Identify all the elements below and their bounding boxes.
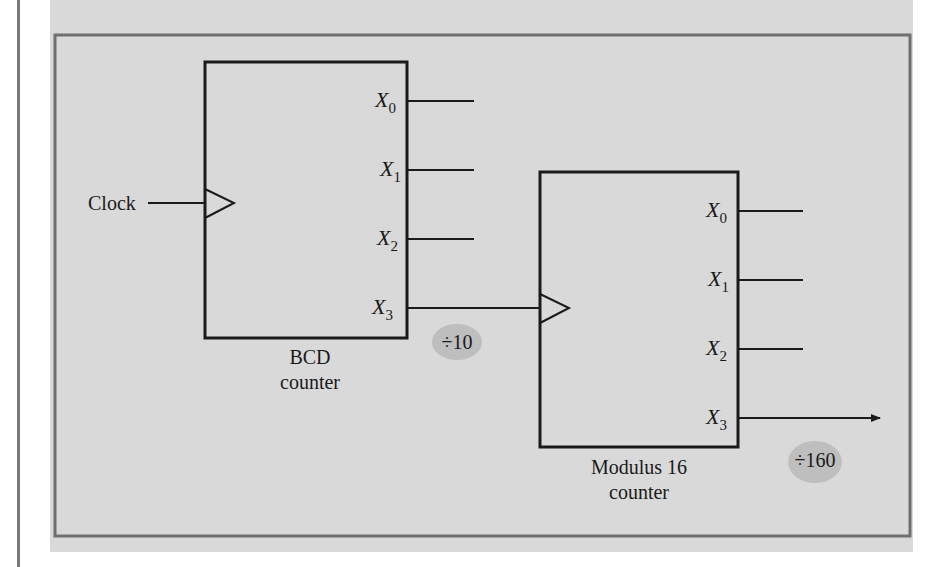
- bcd-output-x2-label: X2: [376, 225, 398, 254]
- mod16-output-x2-label: X2: [705, 335, 727, 364]
- divide-by-10-badge: ÷10: [432, 324, 482, 360]
- bcd-counter-block: X0 X1 X2 X3 BCD counter: [205, 62, 540, 393]
- bcd-caption-line2: counter: [280, 371, 340, 393]
- clock-label: Clock: [88, 192, 136, 214]
- bcd-output-x1-label: X1: [379, 156, 401, 185]
- bcd-output-x3-label: X3: [371, 294, 393, 323]
- mod16-output-x0-label: X0: [705, 197, 727, 226]
- mod16-output-x3-label: X3: [705, 404, 727, 433]
- divide-by-160-badge: ÷160: [788, 441, 842, 483]
- divide-by-10-text: ÷10: [442, 331, 473, 353]
- figure-frame: [55, 35, 910, 536]
- counter-cascade-diagram: Clock X0 X1 X2 X3 BCD counter ÷10 X0 X1 …: [0, 0, 951, 567]
- bcd-caption-line1: BCD: [289, 346, 330, 368]
- bcd-output-x0-label: X0: [374, 87, 396, 116]
- bcd-clock-input-triangle: [205, 189, 234, 218]
- mod16-caption-line2: counter: [609, 481, 669, 503]
- mod16-output-x1-label: X1: [707, 266, 729, 295]
- divide-by-160-text: ÷160: [795, 449, 836, 471]
- mod16-clock-input-triangle: [540, 294, 569, 323]
- mod16-caption-line1: Modulus 16: [591, 456, 687, 478]
